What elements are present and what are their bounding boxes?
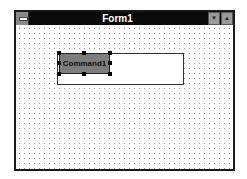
maximize-icon[interactable]: ▲ [221,12,233,25]
form-design-grid[interactable]: Command1 [16,25,233,169]
title-bar[interactable]: Form1 ▼ ▲ [16,12,233,25]
resize-handle-w[interactable] [57,61,61,65]
window-title: Form1 [30,12,205,25]
resize-handle-e[interactable] [108,61,112,65]
resize-handle-se[interactable] [108,72,112,76]
resize-handle-sw[interactable] [57,72,61,76]
system-menu-icon[interactable] [16,12,29,25]
resize-handle-ne[interactable] [108,51,112,55]
form-window: Form1 ▼ ▲ Command1 [14,10,235,171]
resize-handle-n[interactable] [82,51,86,55]
minimize-icon[interactable]: ▼ [208,12,220,25]
resize-handle-nw[interactable] [57,51,61,55]
command1-button[interactable]: Command1 [59,53,110,74]
resize-handle-s[interactable] [82,72,86,76]
